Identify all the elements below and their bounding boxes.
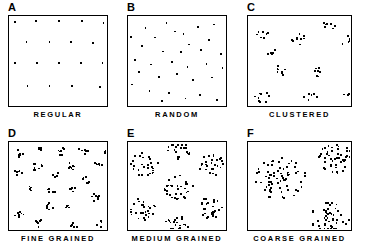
data-point (179, 225, 181, 227)
data-point (342, 43, 344, 45)
data-point (92, 42, 94, 44)
data-point (331, 147, 333, 149)
data-point (58, 20, 60, 22)
data-point (148, 213, 150, 215)
data-point (216, 159, 218, 161)
data-point (215, 216, 217, 218)
data-point (347, 94, 349, 96)
data-point (142, 212, 144, 214)
data-point (186, 144, 188, 146)
data-point (181, 218, 183, 220)
data-point (65, 207, 67, 209)
data-point (57, 172, 59, 174)
data-point (131, 84, 133, 86)
data-point (143, 201, 145, 203)
data-point (173, 144, 175, 146)
data-point (283, 168, 285, 170)
data-point (326, 153, 328, 155)
panel-caption-b: RANDOM (127, 110, 227, 119)
panel-letter-f: F (247, 128, 254, 139)
data-point (54, 176, 56, 178)
data-point (142, 157, 144, 159)
data-point (84, 153, 86, 155)
data-point (166, 190, 168, 192)
data-point (27, 85, 29, 87)
data-point (317, 220, 319, 222)
data-point (325, 202, 327, 204)
data-point (149, 207, 151, 209)
data-point (340, 161, 342, 163)
data-point (269, 189, 271, 191)
data-point (99, 86, 101, 88)
data-point (133, 168, 135, 170)
data-point (217, 200, 219, 202)
data-point (271, 164, 273, 166)
data-point (69, 162, 71, 164)
data-point (346, 147, 348, 149)
data-point (332, 218, 334, 220)
data-point (304, 175, 306, 177)
data-point (332, 160, 334, 162)
data-point (175, 193, 177, 195)
data-point (184, 197, 186, 199)
panel-letter-e: E (127, 128, 134, 139)
data-point (166, 22, 168, 24)
data-point (295, 162, 297, 164)
data-point (216, 99, 218, 101)
data-point (259, 101, 261, 103)
data-point (278, 161, 280, 163)
data-point (304, 172, 306, 174)
data-point (297, 171, 299, 173)
data-point (78, 148, 80, 150)
data-point (331, 226, 333, 228)
data-point (336, 144, 338, 146)
data-point (104, 152, 106, 154)
panel-caption-a: REGULAR (8, 110, 108, 119)
data-point (277, 182, 279, 184)
data-point (288, 163, 290, 165)
data-point (286, 185, 288, 187)
plot-box-d (8, 141, 108, 231)
data-point (178, 156, 180, 158)
data-point (26, 41, 28, 43)
data-point (167, 150, 169, 152)
data-point (281, 175, 283, 177)
data-point (49, 41, 51, 43)
data-point (312, 223, 314, 225)
data-point (213, 24, 215, 26)
data-point (342, 159, 344, 161)
data-point (147, 164, 149, 166)
data-point (343, 160, 345, 162)
data-point (322, 148, 324, 150)
data-point (273, 172, 275, 174)
panel-caption-c: CLUSTERED (247, 110, 352, 119)
data-point (187, 66, 189, 68)
data-point (282, 74, 284, 76)
data-point (23, 214, 25, 216)
data-point (331, 213, 333, 215)
data-point (215, 174, 217, 176)
data-point (168, 219, 170, 221)
data-point (34, 163, 36, 165)
data-point (221, 207, 223, 209)
data-point (212, 173, 214, 175)
panel-letter-a: A (8, 2, 16, 13)
data-point (131, 214, 133, 216)
data-point (93, 200, 95, 202)
data-point (327, 228, 329, 230)
data-point (212, 206, 214, 208)
data-point (52, 174, 54, 176)
data-point (266, 186, 268, 188)
data-point (349, 150, 351, 152)
data-point (14, 215, 16, 217)
data-point (336, 222, 338, 224)
data-point (265, 176, 267, 178)
data-point (208, 155, 210, 157)
data-point (203, 198, 205, 200)
data-point (138, 169, 140, 171)
data-point (274, 49, 276, 51)
data-point (38, 168, 40, 170)
data-point (262, 31, 264, 33)
data-point (81, 150, 83, 152)
data-point (174, 176, 176, 178)
